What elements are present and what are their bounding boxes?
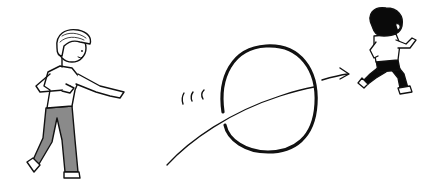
flying-ring	[222, 46, 316, 152]
illustration-canvas	[0, 0, 446, 192]
throw-arc	[167, 87, 314, 165]
direction-arrow	[322, 68, 349, 80]
child-running	[358, 8, 416, 94]
motion-lines	[182, 90, 204, 104]
child-throwing	[27, 30, 124, 178]
illustration-scene	[0, 0, 446, 192]
